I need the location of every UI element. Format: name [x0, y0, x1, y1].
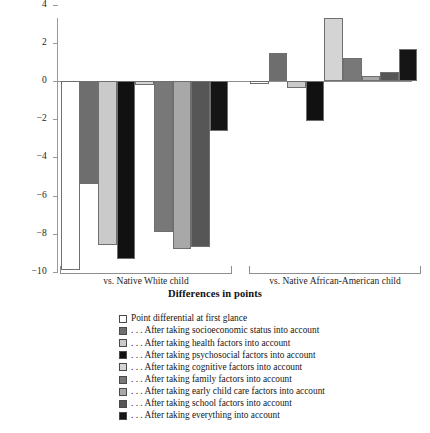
- legend-item: . . . After taking psychosocial factors …: [119, 349, 419, 361]
- bar: [135, 81, 154, 85]
- bar: [250, 81, 269, 84]
- legend-item: . . . After taking family factors into a…: [119, 373, 419, 385]
- legend-label: Point differential at first glance: [131, 314, 247, 323]
- bar: [117, 81, 136, 259]
- legend-item: . . . After taking everything into accou…: [119, 410, 419, 422]
- legend-item: . . . After taking school factors into a…: [119, 398, 419, 410]
- group-label-0: vs. Native White child: [60, 276, 232, 286]
- legend-swatch-icon: [119, 376, 127, 384]
- bar: [324, 18, 343, 81]
- legend-swatch-icon: [119, 327, 127, 335]
- legend-swatch-icon: [119, 351, 127, 359]
- legend-label: . . . After taking health factors into a…: [131, 339, 290, 348]
- figure: 420−2−4−6−8−10 vs. Native White child vs…: [0, 0, 430, 433]
- y-tick-label-6: −8: [21, 229, 47, 239]
- legend-label: . . . After taking early child care fact…: [131, 387, 325, 396]
- group-bracket-native-white: [60, 266, 232, 274]
- chart-legend: Point differential at first glance. . . …: [119, 313, 419, 422]
- bar: [80, 81, 99, 184]
- legend-swatch-icon: [119, 363, 127, 371]
- legend-label: . . . After taking everything into accou…: [131, 411, 280, 420]
- y-tick-label-0: 4: [21, 0, 47, 10]
- legend-label: . . . After taking psychosocial factors …: [131, 351, 316, 360]
- legend-item: . . . After taking early child care fact…: [119, 386, 419, 398]
- x-axis-title: Differences in points: [0, 288, 430, 299]
- bar: [380, 72, 399, 81]
- legend-swatch-icon: [119, 315, 127, 323]
- legend-item: . . . After taking cognitive factors int…: [119, 361, 419, 373]
- legend-swatch-icon: [119, 339, 127, 347]
- bar: [98, 81, 117, 245]
- legend-label: . . . After taking cognitive factors int…: [131, 363, 302, 372]
- y-tick-label-1: 2: [21, 38, 47, 48]
- legend-swatch-icon: [119, 412, 127, 420]
- legend-swatch-icon: [119, 400, 127, 408]
- y-tick-label-5: −6: [21, 191, 47, 201]
- legend-swatch-icon: [119, 388, 127, 396]
- legend-item: . . . After taking socioeconomic status …: [119, 325, 419, 337]
- bar: [306, 81, 325, 121]
- bar: [287, 81, 306, 88]
- legend-label: . . . After taking school factors into a…: [131, 399, 292, 408]
- legend-item: Point differential at first glance: [119, 313, 419, 325]
- y-tick-label-2: 0: [21, 76, 47, 86]
- bar: [191, 81, 210, 247]
- group-label-1: vs. Native African-American child: [249, 276, 421, 286]
- bar: [154, 81, 173, 232]
- bar: [210, 81, 229, 131]
- bar: [61, 81, 80, 270]
- y-tick-label-3: −2: [21, 114, 47, 124]
- bar: [362, 76, 381, 81]
- legend-label: . . . After taking socioeconomic status …: [131, 326, 319, 335]
- bar-series-container: [57, 0, 413, 275]
- bar: [173, 81, 192, 249]
- legend-label: . . . After taking family factors into a…: [131, 375, 292, 384]
- y-tick-label-4: −4: [21, 152, 47, 162]
- bar: [343, 58, 362, 81]
- group-bracket-native-african-american: [249, 266, 421, 274]
- legend-item: . . . After taking health factors into a…: [119, 337, 419, 349]
- y-tick-label-7: −10: [21, 267, 47, 277]
- bar: [399, 49, 418, 81]
- plot-area: 420−2−4−6−8−10 vs. Native White child vs…: [0, 0, 430, 300]
- bar: [269, 53, 288, 81]
